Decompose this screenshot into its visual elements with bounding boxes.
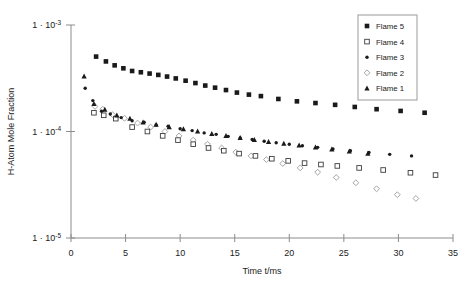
data-point bbox=[166, 125, 169, 128]
data-point bbox=[206, 146, 211, 151]
legend-marker-icon bbox=[365, 56, 368, 59]
legend-label: Flame 2 bbox=[376, 69, 404, 78]
data-point bbox=[104, 59, 109, 64]
y-tick-label: 1 · 10-3 bbox=[32, 19, 61, 31]
data-point bbox=[83, 87, 86, 90]
data-point bbox=[224, 88, 229, 93]
data-point bbox=[121, 66, 126, 71]
x-tick-label: 10 bbox=[175, 248, 185, 258]
data-point bbox=[333, 103, 338, 108]
data-point bbox=[398, 109, 403, 114]
data-point bbox=[147, 71, 152, 76]
data-point bbox=[91, 99, 94, 102]
data-point bbox=[226, 135, 229, 138]
data-point bbox=[280, 161, 286, 167]
data-point bbox=[357, 166, 362, 171]
x-tick-label: 15 bbox=[230, 248, 240, 258]
data-point bbox=[238, 136, 241, 139]
series-flame-1 bbox=[81, 73, 370, 155]
data-point bbox=[92, 110, 97, 115]
data-point bbox=[313, 101, 318, 106]
x-tick-label: 0 bbox=[68, 248, 73, 258]
data-point bbox=[374, 186, 380, 192]
data-point bbox=[112, 63, 117, 68]
data-point bbox=[176, 138, 181, 143]
data-point bbox=[154, 123, 157, 126]
data-point bbox=[266, 139, 271, 144]
data-point bbox=[222, 148, 227, 153]
data-point bbox=[101, 113, 106, 118]
data-point bbox=[250, 138, 253, 141]
data-point bbox=[193, 81, 198, 86]
data-point bbox=[319, 162, 324, 167]
data-point bbox=[333, 175, 339, 181]
data-point bbox=[394, 192, 400, 198]
y-tick-label: 1 · 10-4 bbox=[32, 125, 61, 137]
data-point bbox=[388, 153, 391, 156]
data-point bbox=[288, 142, 291, 145]
x-tick-label: 25 bbox=[339, 248, 349, 258]
data-point bbox=[81, 73, 86, 78]
data-point bbox=[139, 70, 144, 75]
data-point bbox=[315, 169, 321, 175]
x-tick-label: 5 bbox=[123, 248, 128, 258]
legend-marker-icon bbox=[365, 39, 370, 44]
legend-label: Flame 3 bbox=[376, 53, 404, 62]
data-point bbox=[190, 129, 193, 132]
data-point bbox=[195, 129, 200, 134]
x-tick-label: 30 bbox=[393, 248, 403, 258]
data-point bbox=[433, 173, 438, 178]
data-point bbox=[202, 131, 205, 134]
data-point bbox=[331, 147, 334, 150]
data-point bbox=[352, 105, 357, 110]
legend: Flame 5Flame 4Flame 3Flame 2Flame 1 bbox=[358, 15, 417, 100]
data-point bbox=[295, 99, 300, 104]
data-point bbox=[156, 73, 161, 78]
x-axis-title: Time t/ms bbox=[242, 266, 282, 276]
data-point bbox=[263, 157, 269, 163]
legend-label: Flame 5 bbox=[376, 22, 405, 31]
data-point bbox=[214, 133, 217, 136]
legend-label: Flame 1 bbox=[376, 84, 404, 93]
data-point bbox=[247, 92, 252, 97]
data-point bbox=[408, 170, 413, 175]
data-point bbox=[109, 112, 112, 115]
x-tick-label: 20 bbox=[284, 248, 294, 258]
data-point bbox=[262, 140, 265, 143]
data-point bbox=[130, 125, 135, 130]
chart-figure: 1 · 10-31 · 10-41 · 10-505101520253035Ti… bbox=[0, 0, 473, 292]
data-point bbox=[276, 97, 281, 102]
data-point bbox=[374, 107, 379, 112]
data-point bbox=[297, 165, 303, 171]
data-point bbox=[183, 78, 188, 83]
data-point bbox=[191, 142, 196, 147]
legend-marker-icon bbox=[365, 24, 370, 29]
legend-label: Flame 4 bbox=[376, 38, 405, 47]
data-point bbox=[142, 121, 145, 124]
y-tick-label: 1 · 10-5 bbox=[32, 232, 61, 244]
data-point bbox=[178, 127, 181, 130]
data-point bbox=[274, 141, 277, 144]
data-point bbox=[203, 83, 208, 88]
data-point bbox=[367, 151, 370, 154]
data-point bbox=[422, 110, 427, 115]
data-point bbox=[286, 159, 291, 164]
data-point bbox=[160, 134, 165, 139]
data-point bbox=[302, 161, 307, 166]
data-point bbox=[237, 151, 242, 156]
y-axis-title: H-Atom Mole Fraction bbox=[6, 88, 16, 176]
data-point bbox=[94, 54, 99, 59]
data-point bbox=[253, 154, 258, 159]
data-point bbox=[270, 156, 275, 161]
data-point bbox=[213, 85, 218, 90]
data-point bbox=[130, 69, 135, 74]
data-point bbox=[209, 131, 214, 136]
data-point bbox=[100, 110, 103, 113]
data-point bbox=[353, 180, 359, 186]
x-tick-label: 35 bbox=[448, 248, 458, 258]
data-point bbox=[173, 76, 178, 81]
data-point bbox=[259, 94, 264, 99]
scatter-plot: 1 · 10-31 · 10-41 · 10-505101520253035Ti… bbox=[0, 0, 473, 292]
data-point bbox=[349, 149, 352, 152]
data-point bbox=[135, 120, 141, 126]
